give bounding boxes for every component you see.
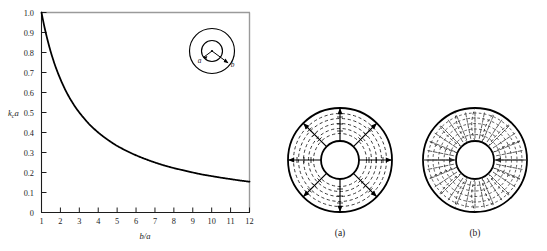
field-tick bbox=[484, 203, 485, 208]
tem-mode-field-diagram: (a) bbox=[262, 0, 404, 251]
field-tick bbox=[494, 179, 497, 182]
field-tick bbox=[463, 131, 465, 135]
field-tick bbox=[461, 125, 463, 129]
field-tick bbox=[449, 183, 452, 186]
inset-label-b: b bbox=[231, 60, 235, 69]
field-tick bbox=[438, 166, 443, 167]
field-tick bbox=[490, 120, 492, 124]
field-tick bbox=[507, 136, 511, 139]
field-tick bbox=[466, 113, 467, 118]
field-tick bbox=[483, 136, 485, 140]
field-tick bbox=[456, 115, 458, 119]
panel-label-b: (b) bbox=[469, 228, 480, 239]
x-tick-label: 4 bbox=[96, 217, 101, 226]
field-tick bbox=[428, 169, 433, 170]
cutoff-wavenumber-chart: 00.10.20.30.40.50.60.70.80.91.0 12345678… bbox=[0, 0, 262, 251]
panel-label-a: (a) bbox=[335, 228, 346, 239]
field-tick bbox=[505, 172, 509, 174]
coax-inset: a b bbox=[190, 29, 235, 74]
electric-field-arrows-a bbox=[288, 108, 392, 212]
field-tick bbox=[449, 155, 454, 156]
field-tick bbox=[496, 155, 501, 156]
y-tick-label: 0.4 bbox=[24, 129, 35, 138]
y-tick-label: 0 bbox=[30, 209, 34, 218]
x-tick-label: 7 bbox=[153, 217, 157, 226]
y-tick-label: 0.9 bbox=[24, 29, 34, 38]
x-tick-label: 6 bbox=[134, 217, 138, 226]
y-axis-title-a: a bbox=[15, 108, 19, 118]
diagram-b-svg: (b) bbox=[404, 0, 547, 251]
field-tick bbox=[495, 168, 499, 170]
x-tick-label: 5 bbox=[115, 217, 119, 226]
field-tick bbox=[498, 183, 501, 186]
field-tick bbox=[457, 133, 460, 137]
diagram-a-content bbox=[288, 108, 392, 212]
field-tick bbox=[451, 124, 454, 128]
x-axis-ticks: 123456789101112 bbox=[39, 208, 253, 227]
field-tick bbox=[435, 133, 439, 136]
field-tick bbox=[452, 179, 455, 182]
inner-conductor-circle-b bbox=[456, 141, 494, 179]
field-tick bbox=[480, 187, 481, 192]
field-tick bbox=[439, 181, 443, 184]
field-tick bbox=[456, 141, 459, 144]
field-tick bbox=[460, 178, 463, 182]
x-tick-label: 3 bbox=[77, 217, 81, 226]
field-tick bbox=[479, 134, 480, 139]
field-tick bbox=[454, 187, 457, 191]
field-tick bbox=[498, 134, 501, 137]
axial-field-arrowhead-left bbox=[449, 157, 455, 162]
field-tick bbox=[490, 141, 493, 144]
y-tick-label: 0.8 bbox=[24, 49, 34, 58]
field-tick bbox=[518, 169, 523, 170]
field-tick bbox=[481, 123, 482, 128]
x-tick-label: 12 bbox=[245, 217, 253, 226]
field-tick bbox=[518, 151, 523, 152]
y-tick-label: 1.0 bbox=[24, 9, 34, 18]
field-tick bbox=[428, 151, 433, 152]
field-tick bbox=[493, 145, 497, 148]
x-tick-label: 2 bbox=[58, 217, 62, 226]
field-tick bbox=[469, 187, 470, 192]
y-tick-label: 0.1 bbox=[24, 189, 34, 198]
field-tick bbox=[452, 137, 455, 140]
field-tick bbox=[507, 181, 511, 184]
y-tick-label: 0.7 bbox=[24, 69, 34, 78]
diagram-a-svg: (a) bbox=[262, 0, 404, 251]
field-tick bbox=[511, 133, 515, 136]
field-tick bbox=[449, 134, 452, 137]
x-tick-label: 1 bbox=[39, 217, 43, 226]
field-tick bbox=[502, 154, 507, 155]
y-tick-label: 0.5 bbox=[24, 109, 34, 118]
axial-field-arrowhead-right bbox=[495, 157, 501, 162]
field-tick bbox=[493, 172, 497, 175]
field-tick bbox=[496, 164, 501, 165]
field-tick bbox=[502, 139, 506, 142]
field-tick bbox=[451, 192, 454, 196]
field-tick bbox=[444, 154, 449, 155]
electric-field-arrowhead bbox=[338, 206, 343, 212]
field-tick bbox=[448, 142, 452, 145]
field-tick bbox=[494, 137, 497, 140]
electric-field-arrowhead bbox=[338, 108, 343, 114]
field-tick bbox=[468, 192, 469, 197]
x-tick-label: 8 bbox=[172, 217, 176, 226]
inset-radius-a-arrow bbox=[203, 51, 212, 59]
field-tick bbox=[467, 197, 468, 202]
field-tick bbox=[490, 133, 493, 137]
field-tick bbox=[484, 113, 485, 118]
field-tick bbox=[444, 178, 448, 181]
inner-conductor-circle-a bbox=[321, 141, 359, 179]
electric-field-arrowhead bbox=[288, 158, 294, 163]
figure-root: 00.10.20.30.40.50.60.70.80.91.0 12345678… bbox=[0, 0, 547, 251]
diagram-b-content bbox=[423, 108, 527, 212]
field-tick bbox=[456, 175, 459, 178]
chart-svg: 00.10.20.30.40.50.60.70.80.91.0 12345678… bbox=[0, 0, 262, 251]
field-tick bbox=[500, 148, 504, 150]
x-axis-title: b/a bbox=[140, 231, 151, 241]
field-tick bbox=[453, 145, 457, 148]
y-axis-ticks: 00.10.20.30.40.50.60.70.80.91.0 bbox=[24, 9, 47, 218]
inset-center-dot bbox=[211, 50, 213, 52]
y-axis-title: kca bbox=[8, 108, 19, 119]
cutoff-curve bbox=[42, 13, 250, 182]
